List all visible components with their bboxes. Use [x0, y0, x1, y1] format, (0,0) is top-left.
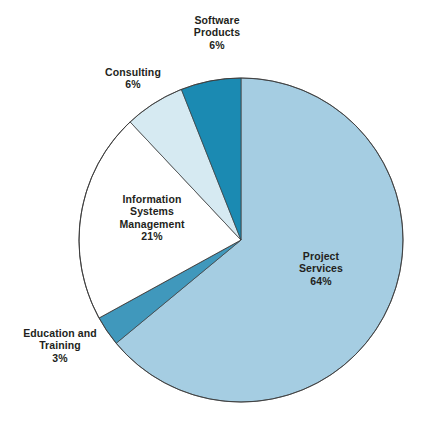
pie-label-software-products: Software Products 6%	[163, 14, 271, 51]
pie-label-education-training-line-2: Training	[2, 339, 118, 351]
pie-label-information-systems-management: Information Systems Management 21%	[88, 193, 216, 243]
pie-label-consulting-line-1: Consulting	[79, 66, 187, 78]
pie-label-education-training-percent: 3%	[2, 352, 118, 364]
pie-chart: Software Products 6% Consulting 6% Infor…	[0, 0, 433, 429]
pie-label-ism-percent: 21%	[88, 230, 216, 242]
pie-label-ism-line-3: Management	[88, 218, 216, 230]
pie-label-software-products-percent: 6%	[163, 39, 271, 51]
pie-label-ism-line-1: Information	[88, 193, 216, 205]
pie-label-consulting-percent: 6%	[79, 78, 187, 90]
pie-label-project-services-line-2: Services	[273, 262, 369, 274]
pie-label-project-services-percent: 64%	[273, 275, 369, 287]
pie-label-education-training-line-1: Education and	[2, 327, 118, 339]
pie-label-consulting: Consulting 6%	[79, 66, 187, 91]
pie-label-ism-line-2: Systems	[88, 205, 216, 217]
pie-chart-canvas	[0, 0, 433, 429]
pie-label-project-services-line-1: Project	[273, 250, 369, 262]
pie-label-project-services: Project Services 64%	[273, 250, 369, 287]
pie-label-software-products-line-2: Products	[163, 26, 271, 38]
pie-label-software-products-line-1: Software	[163, 14, 271, 26]
pie-label-education-training: Education and Training 3%	[2, 327, 118, 364]
